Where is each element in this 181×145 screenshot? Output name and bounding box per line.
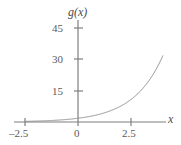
y-tick-label-45: 45 [52, 23, 63, 34]
x-tick-label-0: 0 [74, 128, 80, 139]
exponential-function-graph: 45 30 15 –2.5 0 2.5 g(x) x [0, 0, 181, 145]
y-tick-label-30: 30 [52, 54, 63, 65]
plot-canvas [0, 0, 181, 145]
function-curve [25, 56, 163, 122]
x-tick-label-2-5: 2.5 [122, 128, 136, 139]
x-tick-label-neg-2-5: –2.5 [9, 128, 28, 139]
x-axis-label: x [168, 113, 173, 125]
y-axis-label: g(x) [68, 6, 87, 18]
y-tick-label-15: 15 [52, 86, 63, 97]
